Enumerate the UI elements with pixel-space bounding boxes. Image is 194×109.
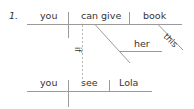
main-object: book [143, 11, 166, 21]
item-number: 1. [9, 11, 18, 21]
sub-object: Lola [119, 78, 138, 88]
indirect-object: her [134, 39, 150, 49]
sub-verb: see [81, 78, 98, 88]
indirect-object-slant [95, 25, 130, 64]
connector-word: if [74, 47, 83, 52]
main-verb: can give [81, 11, 121, 21]
sub-subject: you [40, 78, 57, 88]
main-subject: you [40, 11, 57, 21]
